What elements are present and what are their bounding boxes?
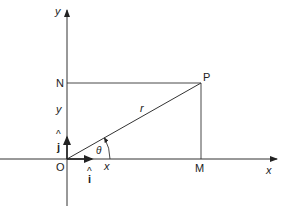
radius-line [67,83,201,159]
origin-label: O [56,161,65,173]
x-axis-label: x [265,164,272,176]
j-hat-caret: ^ [56,129,61,140]
radius-label: r [140,102,145,114]
y-axis-label: y [54,5,62,17]
point-p-label: P [203,71,210,83]
polar-coordinates-diagram: y x N P M O r y x θ ^ j ^ i [0,0,281,216]
x-component-label: x [103,160,110,172]
point-n-label: N [56,77,64,89]
point-m-label: M [195,162,204,174]
j-hat-label: j [56,141,60,153]
i-hat-label: i [88,173,91,185]
angle-arc [105,138,111,159]
y-component-label: y [55,103,63,115]
angle-theta-label: θ [96,145,102,156]
